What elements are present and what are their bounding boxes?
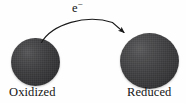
electron-transfer-diagram: e− Oxidized Reduced: [0, 0, 186, 103]
electron-label: e−: [72, 2, 83, 15]
oxidized-label: Oxidized: [9, 86, 56, 99]
reduced-sphere-icon: [120, 33, 179, 89]
oxidized-sphere-icon: [11, 38, 60, 86]
reduced-label: Reduced: [127, 86, 171, 99]
electron-charge-superscript: −: [78, 0, 83, 9]
